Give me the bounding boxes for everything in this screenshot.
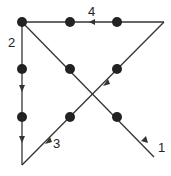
step-label-4: 4 [88, 4, 95, 19]
dot [112, 112, 122, 122]
dot [112, 64, 122, 74]
dot [17, 17, 27, 27]
step-label-3: 3 [53, 136, 60, 151]
arrow-icon [89, 19, 95, 25]
segment-1 [22, 22, 154, 157]
arrow-heads [19, 19, 148, 144]
arrow-icon [19, 136, 25, 143]
path-lines [22, 22, 164, 165]
dot [65, 64, 75, 74]
arrow-icon [19, 85, 25, 92]
step-label-1: 1 [158, 140, 165, 155]
dot [65, 17, 75, 27]
dot [112, 17, 122, 27]
step-label-2: 2 [8, 35, 15, 50]
nine-dots-diagram: 1 2 3 4 [0, 0, 171, 176]
dot [65, 112, 75, 122]
dot [17, 112, 27, 122]
dot [17, 64, 27, 74]
arrow-icon [141, 136, 148, 143]
